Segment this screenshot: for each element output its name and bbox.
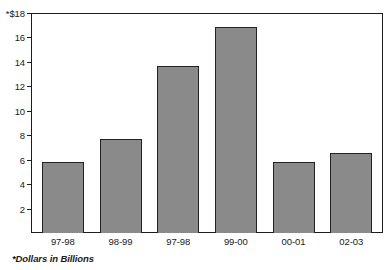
y-axis-label: 8	[20, 130, 25, 141]
y-axis-tick	[27, 13, 31, 14]
y-axis-label: 12	[15, 81, 25, 92]
bar-slot	[265, 14, 323, 233]
y-axis-tick	[27, 160, 31, 161]
chart-screenshot: 246810121416*$18 97-9898-9997-9899-0000-…	[0, 0, 391, 270]
x-axis-label: 02-03	[322, 236, 380, 250]
x-axis-label: 98-99	[92, 236, 150, 250]
bar-slot	[34, 14, 92, 233]
bar-series	[32, 14, 382, 233]
y-axis-tick	[27, 37, 31, 38]
bar-slot	[92, 14, 150, 233]
bar-slot	[207, 14, 265, 233]
chart-footnote: *Dollars in Billions	[12, 253, 94, 264]
x-axis: 97-9898-9997-9899-0000-0102-03	[32, 236, 382, 250]
y-axis-tick	[27, 209, 31, 210]
y-axis-label: 2	[20, 203, 25, 214]
y-axis: 246810121416*$18	[0, 13, 31, 234]
chart-title	[0, 0, 391, 3]
y-axis-tick	[27, 86, 31, 87]
y-axis-tick	[27, 62, 31, 63]
x-axis-label: 97-98	[34, 236, 92, 250]
y-axis-label: *$18	[6, 8, 25, 19]
bar[interactable]	[273, 162, 315, 233]
y-axis-tick	[27, 135, 31, 136]
bar[interactable]	[42, 162, 84, 233]
y-axis-tick	[27, 184, 31, 185]
y-axis-label: 16	[15, 32, 25, 43]
x-axis-label: 97-98	[149, 236, 207, 250]
bar[interactable]	[157, 66, 199, 233]
y-axis-label: 6	[20, 154, 25, 165]
bar[interactable]	[330, 153, 372, 233]
y-axis-label: 14	[15, 56, 25, 67]
y-axis-label: 4	[20, 179, 25, 190]
bar-slot	[322, 14, 380, 233]
y-axis-label: 10	[15, 105, 25, 116]
bar[interactable]	[215, 27, 257, 233]
x-axis-label: 00-01	[265, 236, 323, 250]
y-axis-tick	[27, 111, 31, 112]
bar[interactable]	[100, 139, 142, 233]
bar-slot	[149, 14, 207, 233]
x-axis-label: 99-00	[207, 236, 265, 250]
